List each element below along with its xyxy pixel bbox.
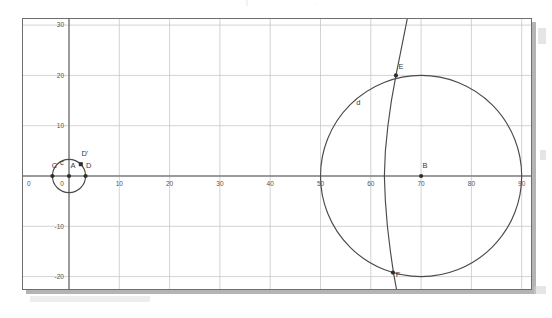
point-marker-D[interactable] (83, 174, 87, 178)
scan-artifact-top-right: . (316, 0, 319, 6)
y-axis-tick-label: -20 (55, 273, 65, 280)
circle-label-d: d (356, 98, 360, 107)
point-marker-A[interactable] (67, 174, 71, 178)
scan-smudge-mid-right (540, 150, 546, 160)
scan-smudge-bottom-right (534, 286, 546, 294)
circle-label-c: c (60, 158, 64, 167)
origin-tick-label: 0 (60, 180, 64, 187)
point-marker-D'[interactable] (79, 162, 83, 166)
geometry-plot-frame: 10203040506070809000-20-10102030cdACDD'B… (22, 18, 532, 290)
x-axis-tick-label: 20 (166, 180, 174, 187)
point-label-D: D (86, 161, 92, 170)
point-label-A: A (70, 161, 75, 170)
x-axis-tick-label: 30 (216, 180, 224, 187)
x-axis-tick-label: 80 (468, 180, 476, 187)
point-marker-E[interactable] (394, 73, 398, 77)
x-axis-tick-label: 10 (116, 180, 124, 187)
x-axis-tick-label: 0 (27, 180, 31, 187)
point-marker-C[interactable] (50, 174, 54, 178)
point-label-F: F (396, 270, 401, 279)
curve-arc-through-E-F[interactable] (384, 19, 408, 290)
scan-artifact-top-mid: | (246, 0, 248, 5)
y-axis-tick-label: 20 (57, 72, 65, 79)
x-axis-tick-label: 70 (417, 180, 425, 187)
point-label-C: C (52, 161, 58, 170)
y-axis-tick-label: -10 (55, 223, 65, 230)
x-axis-tick-label: 40 (267, 180, 275, 187)
x-axis-tick-label: 60 (367, 180, 375, 187)
geometry-plot-canvas: 10203040506070809000-20-10102030cdACDD'B… (23, 19, 532, 290)
point-label-D': D' (81, 149, 88, 158)
screenshot-root: | . 10203040506070809000-20-10102030cdAC… (0, 0, 552, 318)
scan-smudge-bottom-left (30, 296, 150, 302)
point-marker-F[interactable] (391, 270, 395, 274)
scan-smudge-top-right (538, 28, 546, 44)
y-axis-tick-label: 10 (57, 122, 65, 129)
y-axis-tick-label: 30 (57, 21, 65, 28)
point-marker-B[interactable] (419, 174, 423, 178)
point-label-B: B (423, 161, 428, 170)
point-label-E: E (398, 62, 403, 71)
